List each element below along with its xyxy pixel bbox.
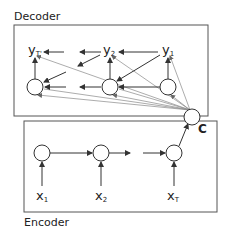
decoder-node-1 (160, 79, 176, 95)
encoder-node-1 (34, 145, 50, 161)
output-label-t: yT' (28, 42, 42, 58)
encoder-box (24, 121, 217, 212)
output-label-1: y1 (162, 42, 174, 58)
decoder-connections (35, 52, 168, 87)
output-label-2: y2 (103, 42, 115, 58)
seq2seq-diagram: Decoder Encoder yT' y2 (0, 0, 230, 234)
encoder-label: Encoder (24, 216, 69, 229)
input-label-2: x2 (95, 188, 107, 204)
encoder-node-2 (93, 145, 109, 161)
decoder-node-2 (102, 79, 118, 95)
encoder-node-t (166, 145, 182, 161)
input-label-t: xT (167, 188, 180, 204)
context-label: C (198, 122, 207, 136)
input-label-1: x1 (36, 188, 48, 204)
decoder-node-t (27, 79, 43, 95)
decoder-label: Decoder (14, 10, 61, 23)
